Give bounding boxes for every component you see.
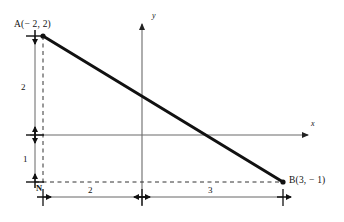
point-b-label: B(3, − 1) xyxy=(289,176,325,186)
origin-corner-label: N xyxy=(36,184,42,193)
coordinate-diagram xyxy=(0,0,344,222)
horizontal-measure-left-label: 2 xyxy=(88,186,93,195)
vertical-measure-lower-label: 1 xyxy=(23,155,28,164)
vertical-measure-upper-label: 2 xyxy=(21,83,26,92)
x-axis-label: x xyxy=(311,120,315,128)
point-a-label: A(− 2, 2) xyxy=(14,20,51,30)
segment-ab xyxy=(43,36,283,182)
figure-canvas: A(− 2, 2) B(3, − 1) y x N 2 1 2 3 xyxy=(0,0,344,222)
y-axis-label: y xyxy=(152,12,156,20)
horizontal-measure-right-label: 3 xyxy=(208,186,213,195)
point-b-marker xyxy=(280,179,285,184)
